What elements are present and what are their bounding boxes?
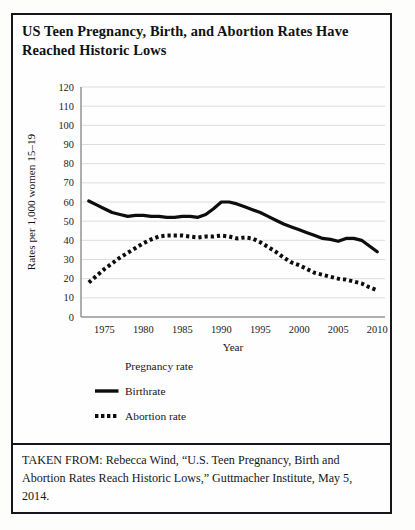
x-axis-title: Year — [223, 341, 244, 353]
y-tick-label: 40 — [64, 235, 74, 246]
y-tick-label: 90 — [64, 139, 74, 150]
y-tick-label: 100 — [58, 120, 74, 131]
legend-label: Birthrate — [125, 385, 166, 397]
y-tick-label: 80 — [64, 158, 74, 169]
y-tick-label: 50 — [64, 216, 74, 227]
caption-divider — [13, 443, 390, 445]
x-tick-label: 2005 — [328, 324, 349, 335]
source-caption: TAKEN FROM: Rebecca Wind, “U.S. Teen Pre… — [22, 452, 374, 505]
y-tick-label: 120 — [58, 82, 74, 93]
y-tick-label: 30 — [64, 254, 74, 265]
chart-figure: 0102030405060708090100110120197519801985… — [11, 70, 393, 440]
y-axis-ticks: 0102030405060708090100110120 — [58, 82, 74, 323]
x-tick-label: 2010 — [367, 324, 388, 335]
legend-label: Abortion rate — [125, 410, 186, 422]
y-tick-label: 0 — [69, 312, 74, 323]
x-tick-label: 1995 — [250, 324, 271, 335]
y-tick-label: 110 — [59, 101, 74, 112]
page-title: US Teen Pregnancy, Birth, and Abortion R… — [22, 22, 372, 60]
series-line-birthrate — [89, 201, 377, 252]
y-tick-label: 60 — [64, 197, 74, 208]
line-chart: 0102030405060708090100110120197519801985… — [11, 70, 393, 440]
y-axis-title: Rates per 1,000 women 15–19 — [25, 133, 37, 270]
series-line-abortion-rate — [89, 236, 377, 291]
x-tick-label: 1980 — [133, 324, 154, 335]
x-tick-label: 1985 — [172, 324, 193, 335]
x-tick-label: 1975 — [94, 324, 115, 335]
y-tick-label: 20 — [64, 273, 74, 284]
y-tick-label: 70 — [64, 177, 74, 188]
page-background: US Teen Pregnancy, Birth, and Abortion R… — [0, 0, 415, 530]
legend-label: Pregnancy rate — [125, 360, 193, 372]
x-axis-ticks: 19751980198519901995200020052010 — [94, 324, 388, 335]
x-tick-label: 2000 — [289, 324, 310, 335]
x-tick-label: 1990 — [211, 324, 232, 335]
y-tick-label: 10 — [64, 292, 74, 303]
